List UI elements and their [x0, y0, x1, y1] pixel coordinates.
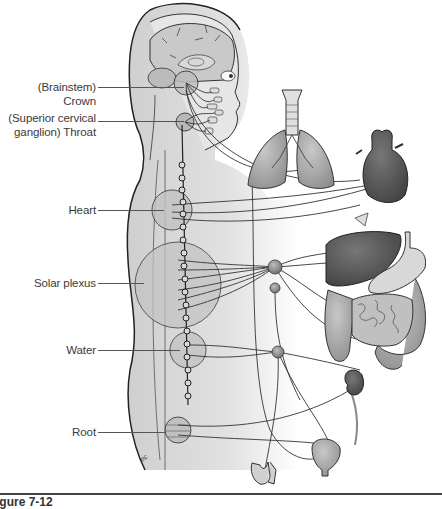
leader-crown — [98, 87, 184, 88]
body-silhouette: ec — [127, 4, 300, 470]
caption-divider — [0, 493, 442, 495]
leader-water — [98, 350, 180, 351]
label-water: Water — [4, 343, 96, 357]
bladder-organ — [312, 439, 340, 476]
leader-heart — [98, 210, 164, 211]
leader-root — [98, 432, 166, 433]
lungs — [248, 90, 334, 188]
small-gland-icon — [355, 213, 368, 226]
label-crown: (Brainstem) Crown — [4, 80, 96, 108]
label-throat-line2: ganglion) Throat — [4, 125, 96, 139]
kidney-organ — [345, 370, 364, 395]
label-root: Root — [4, 425, 96, 439]
leader-solar-plexus — [98, 283, 144, 284]
label-throat-line1: (Superior cervical — [4, 111, 96, 125]
leader-throat — [98, 121, 184, 122]
label-throat: (Superior cervical ganglion) Throat — [4, 111, 96, 139]
figure-caption: igure 7-12 — [0, 495, 53, 509]
label-solar-plexus: Solar plexus — [4, 276, 96, 290]
heart-organ — [356, 130, 408, 202]
label-heart: Heart — [4, 203, 96, 217]
